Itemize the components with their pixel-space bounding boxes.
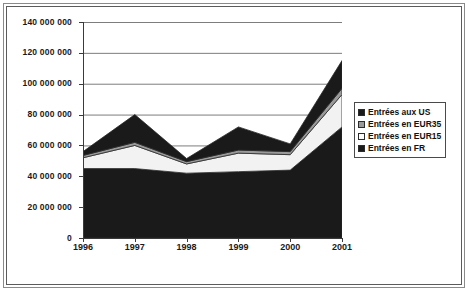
x-axis-tick-mark <box>83 238 84 242</box>
y-axis-tick-mark <box>79 145 83 146</box>
x-axis-tick-label: 1999 <box>228 243 248 252</box>
legend-item-label: Entrées en FR <box>368 144 425 153</box>
y-axis-tick-mark <box>79 115 83 116</box>
y-axis-tick-label: 0 <box>0 234 78 243</box>
plot-area <box>83 22 342 238</box>
y-axis-tick-label: 60 000 000 <box>0 141 78 150</box>
y-axis-tick-label: 40 000 000 <box>0 172 78 181</box>
x-axis-tick-mark <box>238 238 239 242</box>
x-axis-tick-label: 2000 <box>280 243 300 252</box>
y-axis-tick-label: 20 000 000 <box>0 203 78 212</box>
y-axis-tick-label: 100 000 000 <box>0 79 78 88</box>
x-axis-tick-label: 1996 <box>73 243 93 252</box>
legend-item[interactable]: Entrées en EUR35 <box>358 118 441 130</box>
y-axis-tick-mark <box>79 84 83 85</box>
y-axis-tick-label: 140 000 000 <box>0 18 78 27</box>
x-axis-tick-label: 2001 <box>332 243 352 252</box>
stacked-area-plot <box>83 22 342 238</box>
y-axis-tick-label: 80 000 000 <box>0 110 78 119</box>
legend-item-label: Entrées en EUR35 <box>368 120 441 129</box>
x-axis-tick-label: 1997 <box>125 243 145 252</box>
x-axis-tick-mark <box>290 238 291 242</box>
legend-swatch-icon <box>358 109 365 116</box>
x-axis-tick-mark <box>342 238 343 242</box>
y-axis-ticks: 020 000 00040 000 00060 000 00080 000 00… <box>0 0 78 292</box>
area-series-group <box>83 61 342 238</box>
x-axis-tick-mark <box>135 238 136 242</box>
legend-swatch-icon <box>358 133 365 140</box>
y-axis-line <box>83 22 84 239</box>
y-axis-tick-mark <box>79 22 83 23</box>
y-axis-tick-mark <box>79 53 83 54</box>
legend-item[interactable]: Entrées en EUR15 <box>358 130 441 142</box>
y-axis-tick-label: 120 000 000 <box>0 48 78 57</box>
x-axis-ticks: 199619971998199920002001 <box>83 243 343 259</box>
y-axis-tick-mark <box>79 207 83 208</box>
x-axis-tick-mark <box>187 238 188 242</box>
chart-figure: 020 000 00040 000 00060 000 00080 000 00… <box>0 0 469 292</box>
legend-item-label: Entrées aux US <box>368 108 430 117</box>
legend-swatch-icon <box>358 121 365 128</box>
legend-swatch-icon <box>358 145 365 152</box>
legend-item[interactable]: Entrées aux US <box>358 106 441 118</box>
chart-legend: Entrées aux USEntrées en EUR35Entrées en… <box>354 102 446 158</box>
y-axis-tick-mark <box>79 176 83 177</box>
x-axis-line <box>83 238 343 239</box>
legend-item[interactable]: Entrées en FR <box>358 142 441 154</box>
legend-item-label: Entrées en EUR15 <box>368 132 441 141</box>
x-axis-tick-label: 1998 <box>177 243 197 252</box>
